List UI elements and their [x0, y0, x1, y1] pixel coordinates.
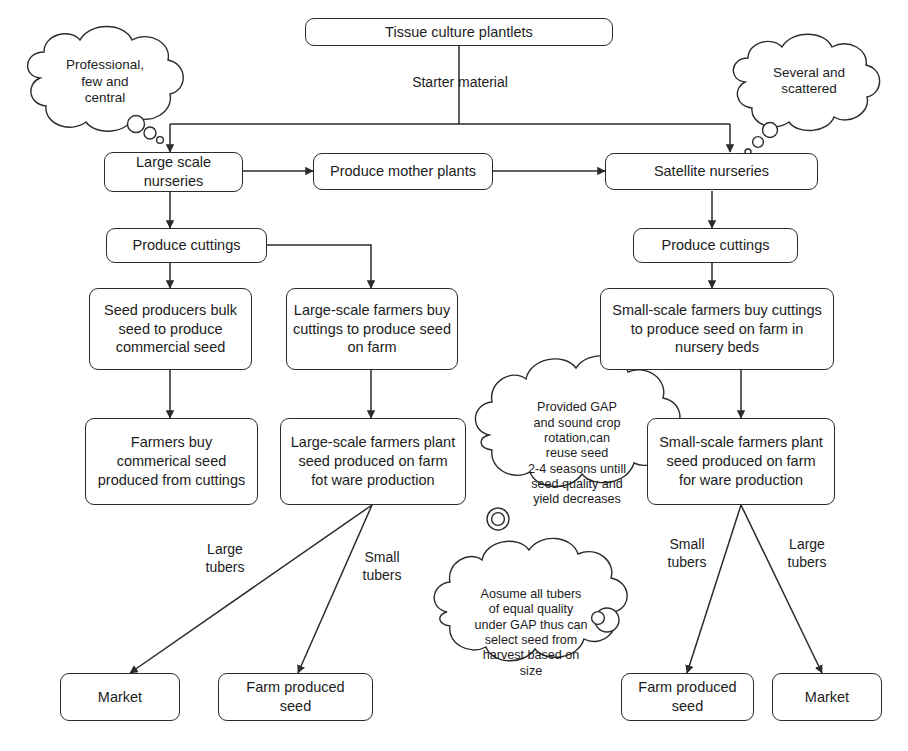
node-produce-cuttings-right[interactable]: Produce cuttings	[633, 228, 798, 263]
node-label: Satellite nurseries	[654, 162, 769, 181]
edge-label-left-small-tubers: Small tubers	[352, 549, 412, 584]
edge-cuttings-to-large-scale-buy	[267, 245, 371, 288]
node-label: Small-scale farmers plant seed produced …	[659, 433, 823, 490]
node-seed-producers-bulk[interactable]: Seed producers bulk seed to produce comm…	[89, 288, 252, 370]
node-label: Large-scale farmers plant seed produced …	[291, 433, 455, 490]
edge-small-plant-to-farm-seed-right	[687, 505, 741, 673]
edge-label-left-large-tubers: Large tubers	[195, 541, 255, 576]
node-satellite-nurseries[interactable]: Satellite nurseries	[605, 153, 818, 190]
node-label: Market	[98, 688, 142, 707]
node-label: Tissue culture plantlets	[385, 23, 533, 42]
node-label: Farmers buy commerical seed produced fro…	[98, 433, 246, 490]
node-produce-mother-plants[interactable]: Produce mother plants	[313, 153, 493, 190]
edge-large-plant-to-market-left	[130, 505, 372, 673]
cloud-professional-few-central-label: Professional, few and central	[44, 50, 166, 114]
edge-label-right-small-tubers: Small tubers	[657, 536, 717, 571]
node-tissue-culture-plantlets[interactable]: Tissue culture plantlets	[305, 18, 613, 46]
edge-small-plant-to-market-right	[741, 505, 822, 673]
node-label: Large-scale farmers buy cuttings to prod…	[293, 301, 451, 358]
flowchart-canvas: Professional, few and central Several an…	[0, 0, 908, 751]
node-produce-cuttings-left[interactable]: Produce cuttings	[106, 228, 267, 263]
node-farmers-buy-commercial-seed[interactable]: Farmers buy commerical seed produced fro…	[85, 418, 258, 505]
node-large-scale-farmers-plant[interactable]: Large-scale farmers plant seed produced …	[280, 418, 466, 505]
node-label: Produce mother plants	[330, 162, 476, 181]
node-label: Farm produced seed	[638, 678, 736, 716]
node-label: Produce cuttings	[132, 236, 240, 255]
node-small-scale-farmers-buy[interactable]: Small-scale farmers buy cuttings to prod…	[600, 288, 834, 370]
cloud-assume-all-tubers-label: Aosume all tubers of equal quality under…	[450, 584, 612, 682]
node-large-scale-farmers-buy[interactable]: Large-scale farmers buy cuttings to prod…	[286, 288, 458, 370]
cloud-provided-gap-label: Provided GAP and sound crop rotation,can…	[492, 396, 662, 512]
edge-label-starter-material: Starter material	[400, 74, 520, 92]
node-label: Market	[805, 688, 849, 707]
edge-label-right-large-tubers: Large tubers	[777, 536, 837, 571]
cloud-several-scattered-label: Several and scattered	[750, 58, 868, 104]
node-label: Farm produced seed	[246, 678, 344, 716]
edge-large-plant-to-farm-seed-left	[298, 505, 372, 673]
node-farm-produced-seed-right[interactable]: Farm produced seed	[621, 673, 754, 721]
node-label: Seed producers bulk seed to produce comm…	[104, 301, 237, 358]
node-label: Large scale nurseries	[136, 153, 211, 191]
node-label: Small-scale farmers buy cuttings to prod…	[612, 301, 822, 358]
node-large-scale-nurseries[interactable]: Large scale nurseries	[104, 152, 243, 192]
node-market-left[interactable]: Market	[60, 673, 180, 721]
node-farm-produced-seed-left[interactable]: Farm produced seed	[218, 673, 373, 721]
node-label: Produce cuttings	[661, 236, 769, 255]
node-market-right[interactable]: Market	[772, 673, 882, 721]
node-small-scale-farmers-plant[interactable]: Small-scale farmers plant seed produced …	[647, 418, 835, 505]
